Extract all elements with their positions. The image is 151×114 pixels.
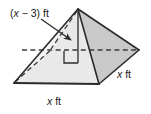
base-edge-front (14, 83, 99, 84)
base-right-label: x ft (116, 68, 131, 80)
base-front-label-unit-text: ft (55, 95, 61, 107)
base-front-label: x ft (46, 95, 61, 107)
pyramid-figure: (x − 3) ft x ft x ft (0, 0, 151, 114)
height-label-suffix: ) ft (37, 7, 49, 19)
base-right-label-unit-text: ft (125, 68, 131, 80)
pyramid-diagram-svg: (x − 3) ft x ft x ft (0, 0, 151, 114)
height-label: (x − 3) ft (10, 7, 49, 19)
height-label-operator: − (19, 7, 31, 19)
